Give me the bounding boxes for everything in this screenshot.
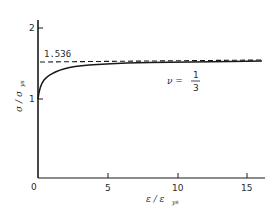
stress-strain-curve xyxy=(38,61,262,99)
x-tick-label-5: 5 xyxy=(105,183,111,193)
y-axis-label-main: σ / σ xyxy=(14,90,24,112)
nu-denominator: 3 xyxy=(193,83,199,93)
nu-numerator: 1 xyxy=(193,70,199,80)
asymptote-label: 1.536 xyxy=(44,49,71,59)
x-axis-label-main: ε / ε xyxy=(146,194,165,204)
y-tick-label-1: 1 xyxy=(29,94,35,104)
chart-canvas: 2 1 0 5 10 15 1.536 ν = 1 3 σ / σ ys ε /… xyxy=(0,0,280,216)
x-axis-label-sub: ys xyxy=(171,198,178,206)
y-axis-label-sub: ys xyxy=(18,81,26,88)
x-tick-label-0: 0 xyxy=(31,182,37,192)
x-tick-label-10: 10 xyxy=(172,183,184,193)
x-axis-label: ε / ε ys xyxy=(146,194,178,206)
nu-label: ν = xyxy=(167,76,183,86)
y-axis-label: σ / σ ys xyxy=(14,81,26,112)
y-tick-label-2: 2 xyxy=(29,23,35,33)
x-tick-label-15: 15 xyxy=(241,183,252,193)
